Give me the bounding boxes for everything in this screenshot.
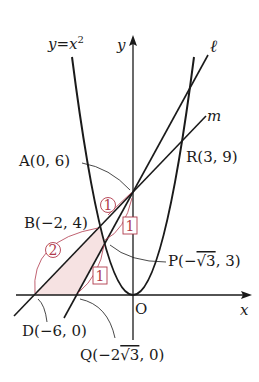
line-l-label: ℓ xyxy=(210,36,217,56)
x-axis-label: x xyxy=(240,301,249,319)
point-D-label: D(−6, 0) xyxy=(22,322,87,340)
coordinate-diagram: 1 2 1 1 。 y=x2 y x O ℓ m A(0, 6) R(3, 9)… xyxy=(0,0,259,382)
circled-2-text: 2 xyxy=(49,242,58,258)
y-axis-label: y xyxy=(116,36,126,54)
origin-label: O xyxy=(135,300,147,318)
point-P-label: P(−√3, 3) xyxy=(168,252,241,270)
line-m-label: m xyxy=(207,107,221,125)
leader-D xyxy=(38,299,47,322)
leader-P xyxy=(110,245,166,262)
point-A-label: A(0, 6) xyxy=(18,152,70,170)
stray-mark: 。 xyxy=(0,38,9,56)
curve-label: y=x2 xyxy=(47,34,84,53)
point-Q-label: Q(−2√3, 0) xyxy=(80,346,164,364)
circled-1-text: 1 xyxy=(104,197,113,213)
boxed-1-upper-text: 1 xyxy=(126,218,135,234)
line-l xyxy=(64,55,208,318)
boxed-1-lower-text: 1 xyxy=(96,268,105,284)
point-R-label: R(3, 9) xyxy=(186,148,238,166)
point-B-label: B(−2, 4) xyxy=(24,214,88,232)
